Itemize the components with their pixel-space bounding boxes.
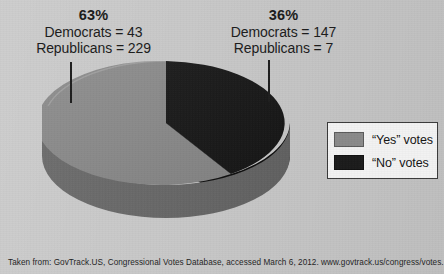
- callout-no-percent: 36%: [196, 7, 371, 23]
- legend-swatch-no: [334, 155, 364, 170]
- legend: “Yes” votes “No” votes: [327, 122, 438, 179]
- source-citation: Taken from: GovTrack.US, Congressional V…: [8, 258, 438, 267]
- legend-swatch-yes: [334, 132, 364, 147]
- pie-chart-3d: [42, 61, 290, 238]
- callout-yes-democrats: Democrats = 43: [6, 24, 181, 40]
- leader-line-yes: [70, 62, 72, 103]
- callout-yes-percent: 63%: [6, 7, 181, 23]
- legend-item-yes: “Yes” votes: [334, 128, 437, 151]
- callout-yes-republicans: Republicans = 229: [6, 40, 181, 56]
- callout-no-democrats: Democrats = 147: [196, 24, 371, 40]
- figure-canvas: 63% Democrats = 43 Republicans = 229 36%…: [0, 0, 444, 274]
- callout-no-republicans: Republicans = 7: [196, 40, 371, 56]
- legend-item-no: “No” votes: [334, 151, 437, 174]
- callout-no-votes: 36% Democrats = 147 Republicans = 7: [196, 7, 371, 56]
- legend-label-no: “No” votes: [372, 156, 429, 170]
- leader-line-no: [268, 60, 270, 102]
- legend-label-yes: “Yes” votes: [372, 133, 433, 147]
- callout-yes-votes: 63% Democrats = 43 Republicans = 229: [6, 7, 181, 56]
